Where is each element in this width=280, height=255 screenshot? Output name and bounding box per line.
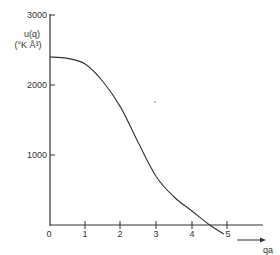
y-axis-title: u(q) (24, 29, 40, 39)
y-axis-units: (°K Å³) (14, 40, 41, 50)
y-tick-1000: 1000 (27, 150, 47, 160)
y-tick-2000: 2000 (27, 80, 47, 90)
x-tick-5: 5 (225, 229, 230, 239)
x-tick-3: 3 (153, 229, 158, 239)
chart: 3000 2000 1000 0 1 2 3 4 5 u(q) (°K Å³) … (0, 0, 280, 255)
stray-mark (154, 101, 156, 103)
data-curve (50, 57, 224, 234)
x-tick-4: 4 (189, 229, 194, 239)
x-axis-arrow-icon (237, 238, 266, 243)
x-axis-title: qa (263, 245, 273, 255)
x-tick-2: 2 (117, 229, 122, 239)
x-ticks: 0 1 2 3 4 5 (46, 221, 230, 239)
x-tick-1: 1 (82, 229, 87, 239)
x-tick-0: 0 (46, 229, 51, 239)
y-tick-3000: 3000 (27, 10, 47, 20)
